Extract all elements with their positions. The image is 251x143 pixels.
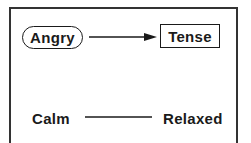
- edge-angry-to-tense: [89, 33, 157, 41]
- edges-layer: [0, 0, 251, 143]
- arrowhead-icon: [144, 33, 157, 41]
